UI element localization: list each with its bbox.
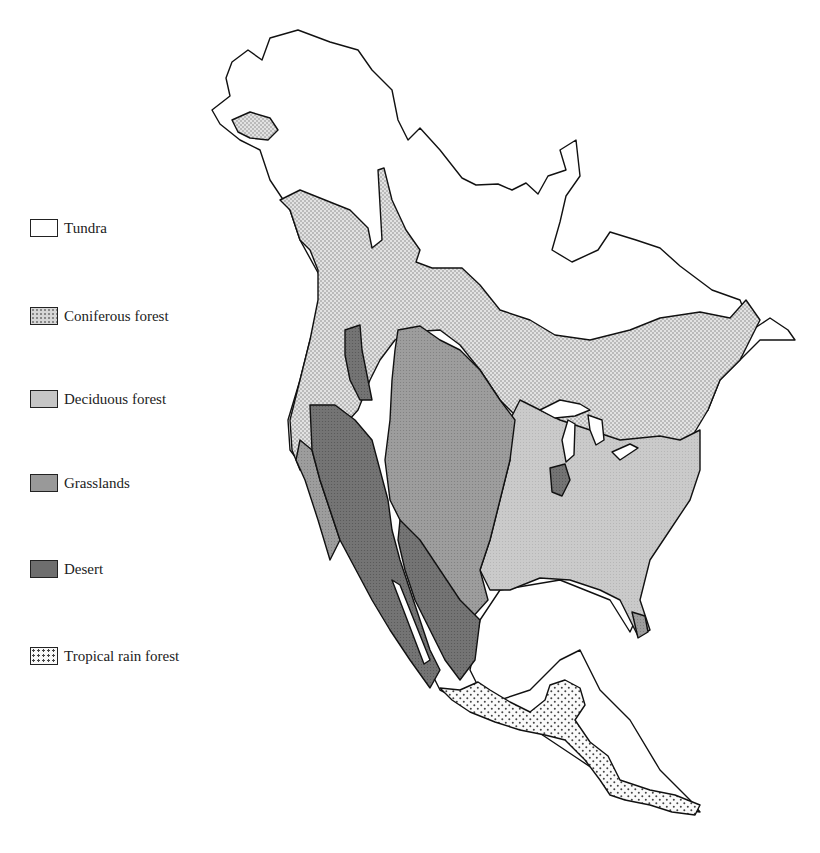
tundra-swatch-icon	[30, 219, 58, 237]
legend-label: Tundra	[64, 219, 107, 237]
region-grasslands-florida	[632, 612, 648, 638]
legend-label: Coniferous forest	[64, 307, 169, 325]
legend-label: Desert	[64, 560, 103, 578]
legend-item-deciduous: Deciduous forest	[30, 390, 166, 408]
legend-item-grasslands: Grasslands	[30, 474, 130, 492]
legend-item-tropical: Tropical rain forest	[30, 647, 179, 665]
grasslands-swatch-icon	[30, 474, 58, 492]
desert-swatch-icon	[30, 560, 58, 578]
map-legend: Tundra Coniferous forest Deciduous fores…	[0, 0, 260, 853]
legend-label: Grasslands	[64, 474, 130, 492]
coniferous-swatch-icon	[30, 307, 58, 325]
deciduous-swatch-icon	[30, 390, 58, 408]
legend-item-desert: Desert	[30, 560, 103, 578]
legend-item-coniferous: Coniferous forest	[30, 307, 169, 325]
legend-label: Deciduous forest	[64, 390, 166, 408]
tropical-swatch-icon	[30, 647, 58, 665]
legend-label: Tropical rain forest	[64, 647, 179, 665]
legend-item-tundra: Tundra	[30, 219, 107, 237]
